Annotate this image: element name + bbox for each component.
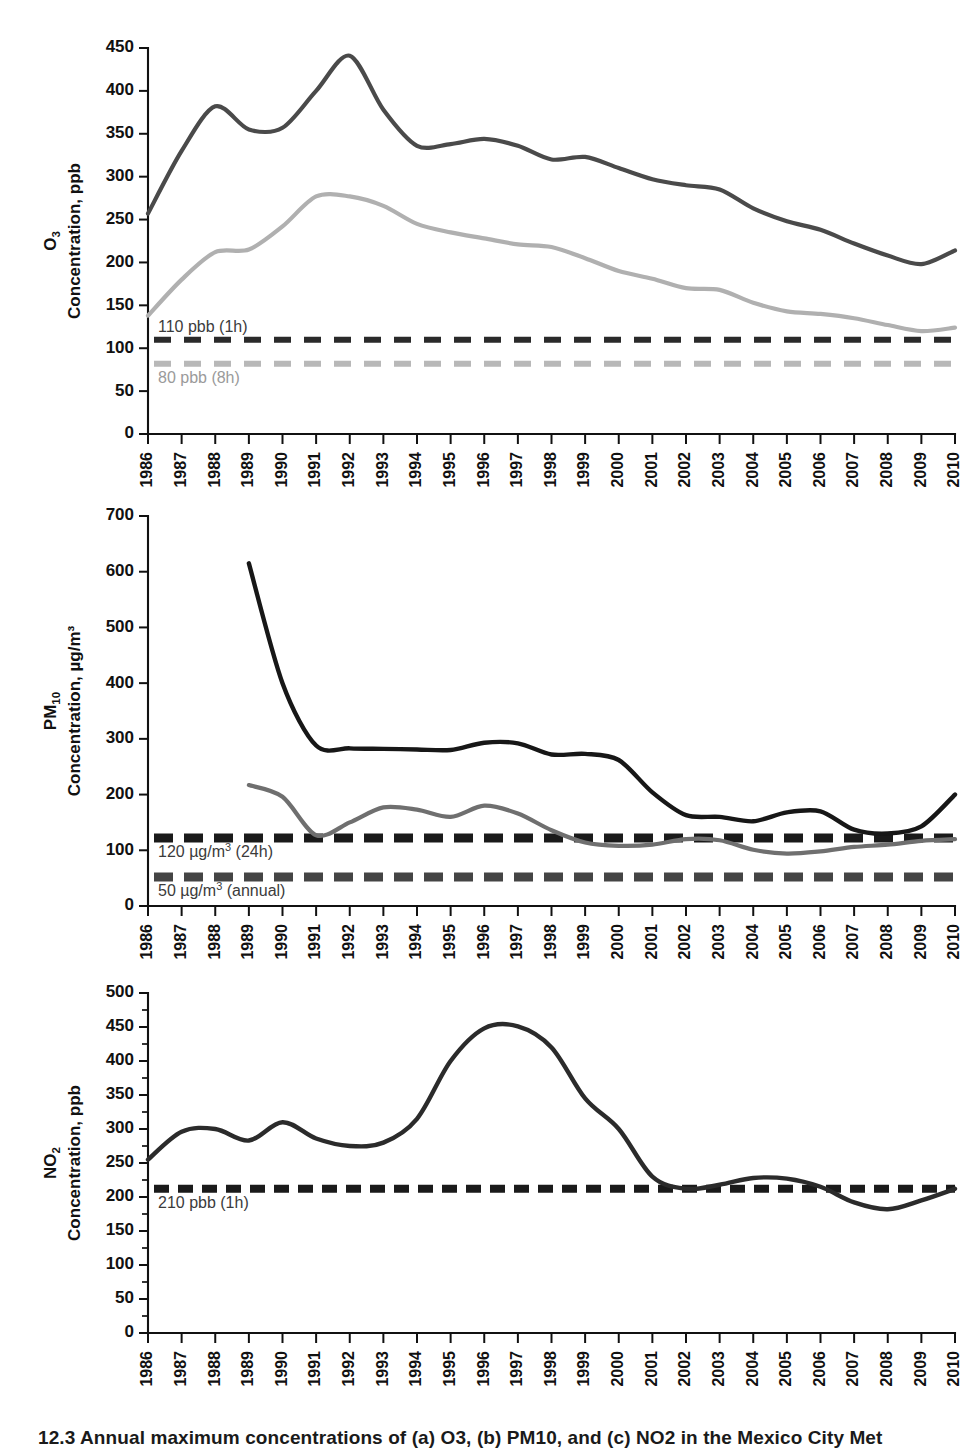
chart-svg-no2: 0501001502002503003504004505001986198719… — [0, 975, 979, 1405]
x-tick-label: 2005 — [777, 452, 794, 488]
x-tick-label: 1999 — [575, 924, 592, 960]
x-tick-label: 1993 — [374, 452, 391, 488]
x-tick-label: 1986 — [138, 924, 155, 960]
y-tick-label: 300 — [106, 728, 134, 747]
x-tick-label: 2002 — [676, 452, 693, 488]
y-tick-label: 350 — [106, 1084, 134, 1103]
axes-group: 0501001502002503003504004501986198719881… — [106, 37, 963, 487]
x-tick-label: 1992 — [340, 452, 357, 488]
x-tick-label: 1998 — [542, 452, 559, 488]
y-axis-title-group: NO2Concentration, ppb — [41, 1085, 84, 1241]
x-tick-label: 2008 — [878, 1351, 895, 1387]
y-tick-label: 100 — [106, 840, 134, 859]
chart-svg-pm10: 0100200300400500600700198619871988198919… — [0, 498, 979, 988]
y-tick-label: 500 — [106, 617, 134, 636]
threshold-label: 110 pbb (1h) — [158, 318, 248, 335]
x-tick-label: 1988 — [206, 452, 223, 488]
x-tick-label: 2002 — [676, 1351, 693, 1387]
x-tick-label: 2000 — [609, 452, 626, 488]
x-tick-label: 1990 — [273, 1351, 290, 1387]
x-tick-label: 2010 — [945, 924, 962, 960]
figure-caption: 12.3 Annual maximum concentrations of (a… — [38, 1424, 958, 1452]
x-tick-label: 2004 — [744, 924, 761, 960]
y-tick-label: 450 — [106, 37, 134, 56]
x-tick-label: 1997 — [508, 1351, 525, 1387]
x-tick-label: 1989 — [239, 924, 256, 960]
y-tick-label: 400 — [106, 1050, 134, 1069]
threshold-label: 210 pbb (1h) — [158, 1194, 249, 1211]
x-tick-label: 1996 — [475, 1351, 492, 1387]
x-tick-label: 1995 — [441, 452, 458, 488]
x-tick-label: 1991 — [306, 1351, 323, 1387]
x-tick-label: 2005 — [777, 924, 794, 960]
y-axis-title-units: Concentration, ppb — [65, 163, 84, 319]
y-tick-label: 200 — [106, 1186, 134, 1205]
series-line — [148, 1024, 955, 1209]
x-tick-label: 1987 — [172, 452, 189, 488]
y-axis-title-species: NO2 — [41, 1147, 62, 1179]
y-axis-title-species: PM10 — [41, 692, 62, 730]
x-tick-label: 1986 — [138, 1351, 155, 1387]
x-tick-label: 2006 — [811, 1351, 828, 1387]
y-axis-title-group: PM10Concentration, µg/m³ — [41, 625, 84, 796]
x-tick-label: 2007 — [844, 924, 861, 960]
y-tick-label: 400 — [106, 80, 134, 99]
series-group — [148, 56, 955, 332]
y-tick-label: 0 — [125, 895, 134, 914]
y-tick-label: 150 — [106, 1220, 134, 1239]
x-tick-label: 1993 — [374, 1351, 391, 1387]
x-tick-label: 1986 — [138, 452, 155, 488]
x-tick-label: 2006 — [811, 924, 828, 960]
chart-svg-o3: 0501001502002503003504004501986198719881… — [0, 10, 979, 500]
threshold-label: 50 µg/m3 (annual) — [158, 880, 285, 899]
x-tick-label: 2003 — [710, 1351, 727, 1387]
series-line — [249, 563, 955, 833]
y-tick-label: 500 — [106, 982, 134, 1001]
chart-panel-pm10: 0100200300400500600700198619871988198919… — [0, 498, 979, 988]
x-tick-label: 1996 — [475, 452, 492, 488]
x-tick-label: 1997 — [508, 452, 525, 488]
x-tick-label: 1994 — [407, 452, 424, 488]
x-tick-label: 1994 — [407, 1351, 424, 1387]
x-tick-label: 1995 — [441, 1351, 458, 1387]
x-tick-label: 1999 — [575, 452, 592, 488]
x-tick-label: 1990 — [273, 924, 290, 960]
y-axis-title-units: Concentration, ppb — [65, 1085, 84, 1241]
x-tick-label: 1996 — [475, 924, 492, 960]
x-tick-label: 2001 — [643, 1351, 660, 1387]
y-tick-label: 300 — [106, 1118, 134, 1137]
y-axis-title-units: Concentration, µg/m³ — [65, 625, 84, 796]
x-tick-label: 1989 — [239, 452, 256, 488]
x-tick-label: 1990 — [273, 452, 290, 488]
x-tick-label: 2008 — [878, 452, 895, 488]
y-tick-label: 250 — [106, 209, 134, 228]
x-tick-label: 2009 — [912, 924, 929, 960]
x-tick-label: 1987 — [172, 1351, 189, 1387]
x-tick-label: 2004 — [744, 1351, 761, 1387]
x-tick-label: 1998 — [542, 924, 559, 960]
x-tick-label: 2009 — [912, 1351, 929, 1387]
y-tick-label: 0 — [125, 1322, 134, 1341]
y-tick-label: 0 — [125, 423, 134, 442]
x-tick-label: 2008 — [878, 924, 895, 960]
threshold-label: 120 µg/m3 (24h) — [158, 841, 273, 860]
series-group — [148, 1024, 955, 1209]
x-tick-label: 2000 — [609, 1351, 626, 1387]
y-tick-label: 50 — [115, 381, 134, 400]
series-line — [249, 785, 955, 854]
y-tick-label: 400 — [106, 673, 134, 692]
y-tick-label: 100 — [106, 338, 134, 357]
x-tick-label: 2009 — [912, 452, 929, 488]
series-group — [249, 563, 955, 853]
x-tick-label: 1994 — [407, 924, 424, 960]
x-tick-label: 2010 — [945, 1351, 962, 1387]
x-tick-label: 1988 — [206, 924, 223, 960]
x-tick-label: 1997 — [508, 924, 525, 960]
y-axis-title-species: O3 — [41, 231, 62, 251]
y-tick-label: 50 — [115, 1288, 134, 1307]
chart-panel-no2: 0501001502002503003504004505001986198719… — [0, 975, 979, 1405]
x-tick-label: 2001 — [643, 452, 660, 488]
y-tick-label: 300 — [106, 166, 134, 185]
y-tick-label: 100 — [106, 1254, 134, 1273]
